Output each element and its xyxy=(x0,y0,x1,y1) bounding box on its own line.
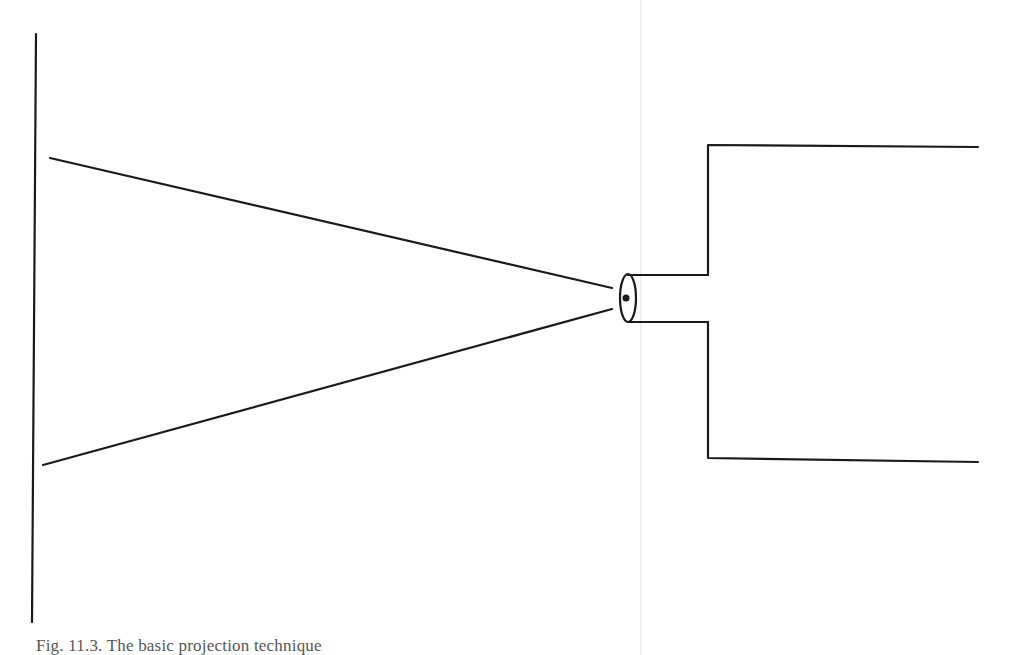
projector-body xyxy=(708,145,978,462)
projection-screen xyxy=(32,34,36,622)
figure-caption: Fig. 11.3. The basic projection techniqu… xyxy=(36,636,322,655)
projection-diagram xyxy=(0,0,1009,655)
focal-point xyxy=(623,295,630,302)
beam-upper-edge xyxy=(50,158,612,288)
beam-lower-edge xyxy=(43,309,612,465)
lens-barrel xyxy=(620,274,708,322)
